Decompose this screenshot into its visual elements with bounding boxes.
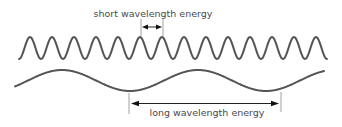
short-wavelength-label: short wavelength energy (94, 8, 213, 19)
long-wave (15, 70, 324, 91)
long-wavelength-double-arrow-icon (131, 101, 279, 106)
short-wavelength-double-arrow-icon (142, 25, 162, 30)
long-wavelength-label: long wavelength energy (150, 107, 265, 118)
short-wave (19, 37, 327, 59)
wavelength-diagram: short wavelength energy long wavelength … (0, 0, 342, 127)
